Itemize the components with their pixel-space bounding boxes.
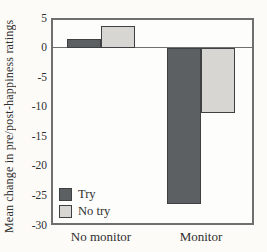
y-tick-label-5: 5 — [17, 12, 47, 25]
legend-label-try: Try — [78, 188, 96, 201]
y-tick-label--5: -5 — [17, 71, 47, 84]
x-category-label-monitor: Monitor — [141, 229, 261, 245]
legend-swatch-try — [59, 188, 72, 201]
legend: TryNo try — [59, 186, 110, 220]
y-tick-label-0: 0 — [17, 41, 47, 54]
legend-row-no-try: No try — [59, 203, 110, 220]
y-tick-label--10: -10 — [17, 100, 47, 113]
y-axis-label: Mean change in pre/post-happiness rating… — [1, 0, 17, 252]
y-tick-label--25: -25 — [17, 189, 47, 202]
bar-try-monitor — [167, 48, 201, 205]
legend-swatch-no-try — [59, 205, 72, 218]
bar-no-try-monitor — [201, 48, 235, 113]
legend-row-try: Try — [59, 186, 110, 203]
bar-try-no-monitor — [67, 39, 101, 48]
legend-label-no-try: No try — [78, 205, 110, 218]
bar-chart: Mean change in pre/post-happiness rating… — [0, 0, 267, 252]
bar-no-try-no-monitor — [101, 26, 135, 48]
y-tick-label--20: -20 — [17, 159, 47, 172]
y-tick-label--15: -15 — [17, 130, 47, 143]
